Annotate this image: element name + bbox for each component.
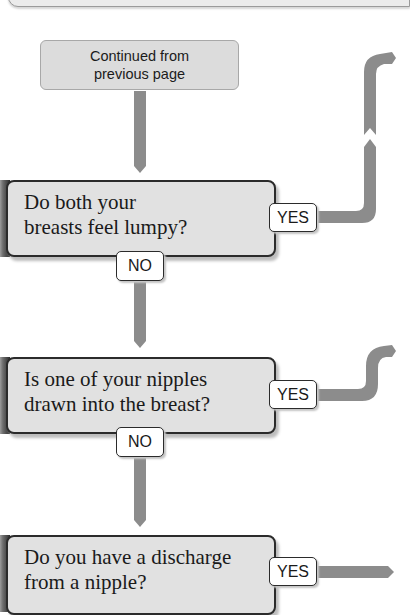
question-1-line-1: Do both your	[24, 190, 274, 215]
question-2-box: Is one of your nipples drawn into the br…	[6, 357, 276, 434]
question-3-box: Do you have a discharge from a nipple?	[6, 535, 276, 615]
question-2-no-label: NO	[116, 427, 164, 457]
start-line-1: Continued from	[90, 47, 189, 65]
question-2-line-1: Is one of your nipples	[24, 367, 274, 392]
question-1-no-label: NO	[116, 251, 164, 281]
question-1-yes-label: YES	[269, 203, 317, 232]
question-2-line-2: drawn into the breast?	[24, 392, 274, 417]
question-2-yes-label: YES	[269, 380, 317, 409]
question-3-line-2: from a nipple?	[24, 570, 274, 595]
continued-from-previous-page-box: Continued from previous page	[40, 40, 239, 90]
question-3-line-1: Do you have a discharge	[24, 545, 274, 570]
question-1-box: Do both your breasts feel lumpy?	[6, 180, 276, 257]
question-3-yes-label: YES	[269, 557, 317, 586]
question-1-line-2: breasts feel lumpy?	[24, 215, 274, 240]
start-line-2: previous page	[94, 65, 185, 83]
